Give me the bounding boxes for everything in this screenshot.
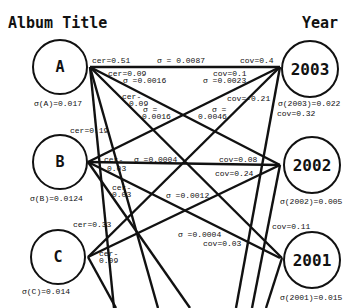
edge-label: σ =0.0004 xyxy=(178,230,221,239)
node-b-label: B xyxy=(55,153,64,171)
edge-label: 0.0016 xyxy=(142,112,171,121)
edge-label: 0.03 xyxy=(112,190,131,199)
edge-label: σ =0.0016 xyxy=(123,76,166,85)
node-c[interactable]: C xyxy=(31,230,85,284)
node-c-sigma: σ(C)=0.014 xyxy=(22,287,70,296)
bipartite-diagram: Album Title Year A σ(A)=0.017 B σ(B)=0.0… xyxy=(0,0,359,308)
edge-label: σ =0.0012 xyxy=(166,191,209,200)
node-2003-cov: cov=0.32 xyxy=(277,109,316,118)
edge-label: cer=0.33 xyxy=(73,220,112,229)
node-2003[interactable]: 2003 xyxy=(282,41,338,97)
node-c-label: C xyxy=(53,248,62,266)
left-column-title: Album Title xyxy=(8,14,107,32)
edge-label: σ =0.0004 xyxy=(134,155,177,164)
node-2002-label: 2002 xyxy=(293,156,332,175)
node-a[interactable]: A xyxy=(33,40,87,94)
node-2002[interactable]: 2002 xyxy=(284,137,340,193)
node-2003-label: 2003 xyxy=(291,60,330,79)
edge-label: 0.09 xyxy=(99,256,118,265)
node-2002-sigma: σ(2002)=0.005 xyxy=(280,197,343,206)
edge-label: cov=-0.21 xyxy=(227,94,270,103)
edge-label: 0.0046 xyxy=(198,112,227,121)
edge-label: cov=0.4 xyxy=(240,56,274,65)
node-2001-sigma: σ(2001)=0.015 xyxy=(280,293,343,302)
node-a-label: A xyxy=(55,58,64,76)
edge-a-down-1 xyxy=(90,67,114,308)
edge-2002-down xyxy=(252,165,280,308)
diagram-svg: Album Title Year A σ(A)=0.017 B σ(B)=0.0… xyxy=(0,0,359,308)
edge-label: cer=0.19 xyxy=(70,126,109,135)
edge-label: cov=0.11 xyxy=(272,222,311,231)
edge-label: cov=0.03 xyxy=(203,239,242,248)
edge-label: cov=0.08 xyxy=(219,155,258,164)
node-2001-label: 2001 xyxy=(293,251,332,270)
node-2001[interactable]: 2001 xyxy=(284,232,340,288)
edge-label: 0.03 xyxy=(107,164,126,173)
node-b-sigma: σ(B)=0.0124 xyxy=(30,194,83,203)
edge-label: σ = 0.0087 xyxy=(157,56,205,65)
node-a-sigma: σ(A)=0.017 xyxy=(34,99,82,108)
edge-label: cer=0.51 xyxy=(92,56,131,65)
edge-label: cer- xyxy=(104,155,123,164)
edge-label: cov=0.24 xyxy=(215,169,254,178)
node-2003-sigma: σ(2003)=0.022 xyxy=(278,99,341,108)
node-b[interactable]: B xyxy=(33,135,87,189)
right-column-title: Year xyxy=(302,14,338,32)
edge-label: σ =0.0023 xyxy=(203,76,246,85)
